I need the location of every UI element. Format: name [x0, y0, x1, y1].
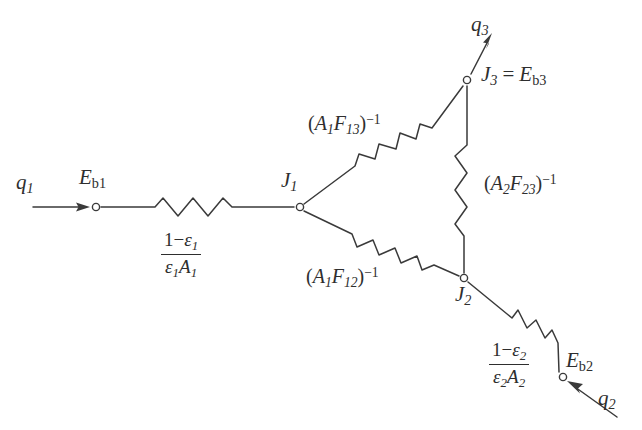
resistor-surface-1 — [101, 198, 294, 216]
label-resistor-surface-1: 1−ε1 ε1A1 — [161, 229, 201, 280]
resistor-space-23 — [455, 86, 467, 273]
node-Eb2 — [559, 373, 566, 380]
label-J3-equals-Eb3: J3=Eb3 — [481, 64, 546, 87]
label-q1: q1 — [16, 172, 34, 195]
label-q3: q3 — [471, 14, 489, 37]
label-resistor-space-13: (A1F13)−1 — [308, 113, 381, 137]
label-q2: q2 — [598, 388, 616, 411]
label-Eb1: Eb1 — [79, 167, 106, 190]
node-J3 — [463, 76, 470, 83]
node-J1 — [296, 203, 303, 210]
resistor-space-13 — [304, 86, 463, 204]
label-resistor-surface-2: 1−ε2 ε2A2 — [489, 339, 529, 390]
fraction-denominator: ε2A2 — [489, 364, 529, 390]
node-Eb1 — [92, 203, 99, 210]
fraction-denominator: ε1A1 — [161, 254, 201, 280]
label-Eb2: Eb2 — [566, 350, 593, 373]
label-J2: J2 — [455, 284, 471, 307]
label-resistor-space-12: (A1F12)−1 — [306, 266, 379, 290]
label-resistor-space-23: (A2F23)−1 — [484, 173, 557, 197]
fraction-numerator: 1−ε1 — [161, 229, 201, 254]
fraction-numerator: 1−ε2 — [489, 339, 529, 364]
node-J2 — [460, 274, 467, 281]
radiation-network-figure: q1 Eb1 J1 q3 J3=Eb3 J2 Eb2 q2 (A1F13)−1 … — [0, 0, 642, 430]
label-J1: J1 — [281, 170, 297, 193]
